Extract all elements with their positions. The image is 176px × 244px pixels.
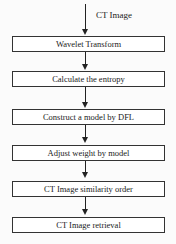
- step-image-retrieval: CT Image retrieval: [12, 217, 165, 233]
- input-label: CT Image: [96, 10, 132, 20]
- connector-line: [85, 87, 86, 103]
- arrowhead-icon: [82, 172, 88, 178]
- step-adjust-weight: Adjust weight by model: [12, 145, 165, 161]
- arrowhead-icon: [82, 64, 88, 70]
- arrowhead-icon: [82, 209, 88, 215]
- step-label: CT Image similarity order: [44, 184, 133, 194]
- step-label: Construct a model by DFL: [43, 112, 134, 122]
- step-construct-model: Construct a model by DFL: [12, 109, 165, 125]
- input-arrowhead-icon: [82, 29, 88, 35]
- input-arrow-line: [85, 4, 86, 30]
- arrowhead-icon: [82, 137, 88, 143]
- step-calculate-entropy: Calculate the entropy: [12, 71, 165, 87]
- step-label: Wavelet Transform: [56, 39, 121, 49]
- arrowhead-icon: [82, 102, 88, 108]
- step-label: Adjust weight by model: [48, 148, 130, 158]
- step-label: Calculate the entropy: [52, 74, 125, 84]
- step-wavelet-transform: Wavelet Transform: [12, 36, 165, 52]
- step-similarity-order: CT Image similarity order: [12, 181, 165, 197]
- step-label: CT Image retrieval: [56, 220, 121, 230]
